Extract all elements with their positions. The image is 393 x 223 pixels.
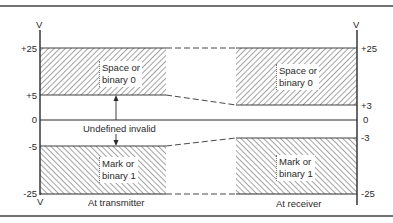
transmitter-caption: At transmitter bbox=[88, 197, 145, 208]
tx-tick-plus25: +25 bbox=[21, 43, 37, 54]
receiver-unit-top: V bbox=[353, 19, 359, 30]
receiver-caption: At receiver bbox=[276, 198, 321, 209]
tx-tick-minus25: -25 bbox=[23, 188, 37, 199]
rx-tick-0: 0 bbox=[363, 114, 368, 125]
transmitter-unit-bottom: V bbox=[37, 196, 43, 207]
tx-space-label: Space or binary 0 bbox=[99, 61, 142, 87]
tx-tick-0: 0 bbox=[32, 114, 37, 125]
rx-mark-label: Mark or binary 1 bbox=[276, 155, 315, 181]
tx-tick-plus5: +5 bbox=[26, 90, 37, 101]
voltage-level-diagram bbox=[0, 0, 393, 223]
rx-tick-minus25: -25 bbox=[361, 188, 375, 199]
dashed-connectors bbox=[166, 48, 236, 194]
transmitter-unit-top: V bbox=[36, 19, 42, 30]
tx-tick-minus5: -5 bbox=[29, 141, 37, 152]
tx-mark-label: Mark or binary 1 bbox=[99, 157, 138, 183]
rx-tick-plus25: +25 bbox=[361, 43, 377, 54]
rx-space-label: Space or binary 0 bbox=[276, 64, 319, 90]
rx-tick-minus3: -3 bbox=[361, 132, 369, 143]
rx-tick-plus3: +3 bbox=[361, 100, 372, 111]
undefined-invalid-label: Undefined invalid bbox=[82, 123, 157, 134]
